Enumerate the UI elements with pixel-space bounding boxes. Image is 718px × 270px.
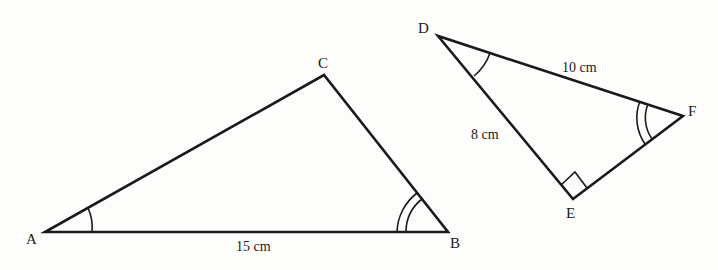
vertex-label-c: C [318,55,328,71]
angle-a-arc [88,208,92,232]
vertex-label-e: E [566,205,575,221]
angle-e-right-angle-mark [561,172,587,188]
angle-f-arc-inner [645,104,652,139]
angle-f-arc-outer [637,101,645,144]
triangle-abc [45,75,448,232]
similar-triangles-diagram: A B C D E F 15 cm 10 cm 8 cm [0,0,718,270]
vertex-label-b: B [450,235,460,251]
vertex-label-d: D [418,20,429,36]
angle-d-arc [474,53,490,76]
side-df-length: 10 cm [562,60,597,75]
vertex-label-f: F [688,103,696,119]
triangle-def [438,36,683,199]
angle-b-arc-inner [406,199,422,232]
side-de-length: 8 cm [471,127,499,142]
side-ab-length: 15 cm [236,239,271,254]
vertex-label-a: A [26,231,37,247]
